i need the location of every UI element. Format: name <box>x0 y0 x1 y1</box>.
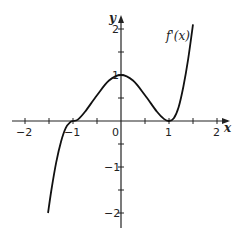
chart-plot: −2−112−2−112 x y 0 f'(x) <box>0 0 239 235</box>
function-label: f'(x) <box>165 29 190 43</box>
x-tick-label: −2 <box>16 126 32 139</box>
origin-label: 0 <box>112 126 119 139</box>
x-tick-label: 2 <box>213 126 220 139</box>
x-axis-label: x <box>223 121 232 135</box>
y-tick-label: −2 <box>104 207 120 220</box>
y-axis-label: y <box>108 11 117 25</box>
y-tick-label: −1 <box>104 161 120 174</box>
x-tick-label: 1 <box>165 126 172 139</box>
axes <box>12 15 230 228</box>
y-axis-arrow-icon <box>118 15 124 23</box>
